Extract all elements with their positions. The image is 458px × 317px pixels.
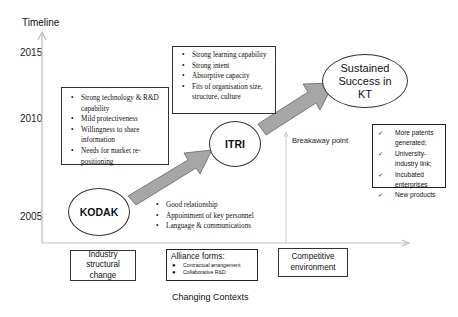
outcome-item: New products — [395, 190, 443, 200]
itri-attribute-item: Strong intent — [192, 61, 271, 72]
bullet-icon: ● — [172, 269, 176, 276]
itri-attribute-item: Strong learning capability — [192, 50, 271, 61]
kodak-node: KODAK — [68, 188, 130, 236]
itri-attributes-box: Strong learning capability Strong intent… — [172, 46, 276, 114]
kodak-attribute-item: Mild protectiveness — [81, 114, 164, 125]
competitive-environment-box: Competitive environment — [278, 248, 348, 277]
outcome-item: Incubated enterprises — [395, 170, 443, 191]
sustained-success-node: Sustained Success in KT — [322, 54, 408, 108]
alliance-characteristics-list: Good relationship Appointment of key per… — [152, 200, 292, 232]
kodak-attribute-item: Strong technology & R&D capability — [81, 93, 164, 114]
alliance-characteristic-item: Language & communications — [166, 221, 292, 232]
alliance-form-item: ● Collaborative R&D — [171, 269, 253, 276]
bullet-icon: ● — [172, 262, 176, 269]
breakaway-point-label: Breakaway point — [292, 136, 348, 145]
changing-contexts-label: Changing Contexts — [172, 292, 249, 302]
itri-node: ITRI — [209, 121, 261, 167]
alliance-forms-box: Alliance forms: ● Contractual arrangemen… — [166, 249, 258, 281]
outcome-item: University-industry link; — [395, 149, 443, 170]
alliance-characteristic-item: Good relationship — [166, 200, 292, 211]
kodak-attribute-item: Needs for market re-positioning — [81, 146, 164, 167]
itri-attribute-item: Absorptive capacity — [192, 71, 271, 82]
itri-attribute-item: Fits of organisation size, structure, cu… — [192, 82, 271, 103]
outcome-item: More patents generated; — [395, 128, 443, 149]
industry-structural-change-box: Industry structural change — [70, 250, 136, 281]
alliance-form-item: ● Contractual arrangement — [171, 262, 253, 269]
alliance-forms-title: Alliance forms: — [171, 252, 253, 262]
kodak-attributes-box: Strong technology & R&D capability Mild … — [61, 87, 169, 165]
kodak-attribute-item: Willingness to share information — [81, 125, 164, 146]
outcomes-box: More patents generated; University-indus… — [372, 124, 446, 188]
alliance-characteristic-item: Appointment of key personnel — [166, 211, 292, 222]
